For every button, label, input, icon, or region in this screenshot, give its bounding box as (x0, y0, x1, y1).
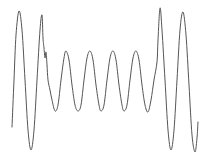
waveform-chart (0, 0, 209, 158)
waveform-line (12, 8, 198, 152)
